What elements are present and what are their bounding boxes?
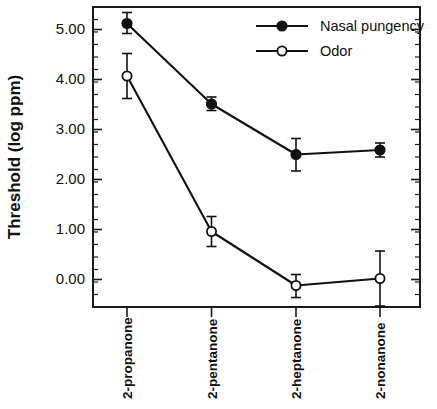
- data-point-pungency: [291, 150, 301, 160]
- y-axis-title: Threshold (log ppm): [5, 75, 24, 239]
- y-tick-label: 5.00: [56, 20, 85, 37]
- series-line-odor: [127, 76, 380, 286]
- data-point-odor: [122, 71, 131, 80]
- x-tick-label: 2-propanone: [120, 317, 135, 399]
- legend-label: Nasal pungency: [320, 18, 425, 34]
- data-point-odor: [375, 274, 384, 283]
- y-tick-label: 1.00: [56, 220, 85, 237]
- y-axis: 0.001.002.003.004.005.00: [56, 7, 420, 307]
- chart-legend: Nasal pungencyOdor: [256, 18, 425, 59]
- y-tick-label: 3.00: [56, 120, 85, 137]
- x-tick-labels: 2-propanone2-pentanone2-heptanone2-nonan…: [120, 317, 388, 399]
- legend-label: Odor: [320, 43, 352, 59]
- line-chart: 0.001.002.003.004.005.00 Threshold (log …: [0, 0, 437, 409]
- x-tick-label: 2-heptanone: [289, 318, 304, 399]
- x-axis: [127, 307, 380, 317]
- x-tick-label: 2-pentanone: [205, 318, 220, 399]
- data-point-odor: [207, 227, 216, 236]
- data-point-pungency: [122, 19, 132, 29]
- figure-container: 0.001.002.003.004.005.00 Threshold (log …: [0, 0, 437, 409]
- x-tick-label: 2-nonanone: [373, 322, 388, 399]
- legend-marker-open-circle-icon: [277, 46, 286, 55]
- legend-marker-filled-circle-icon: [277, 21, 287, 31]
- data-point-pungency: [207, 99, 217, 109]
- data-point-pungency: [375, 145, 385, 155]
- y-tick-label: 0.00: [56, 270, 85, 287]
- data-point-odor: [291, 281, 300, 290]
- y-tick-label: 2.00: [56, 170, 85, 187]
- y-tick-label: 4.00: [56, 70, 85, 87]
